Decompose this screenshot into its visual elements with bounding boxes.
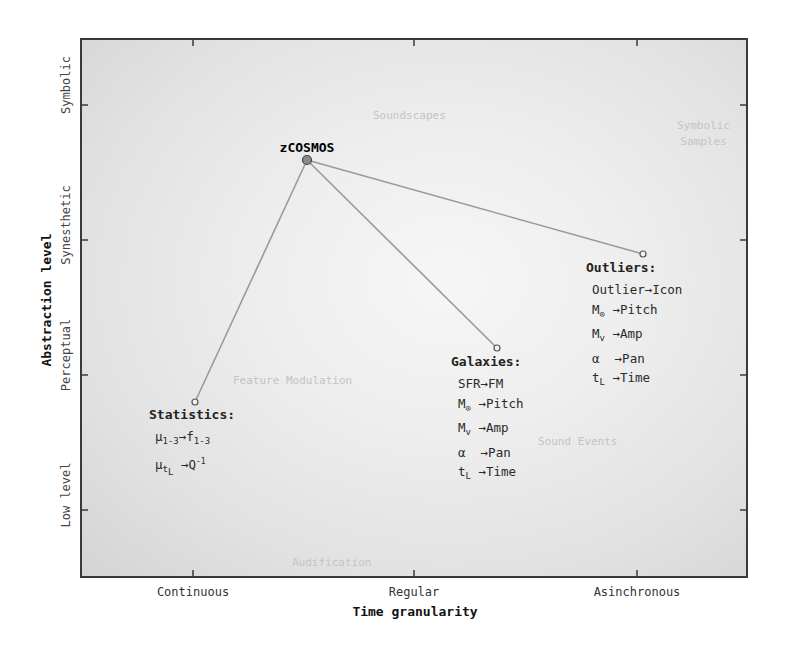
outliers-node-title: Outliers: — [586, 260, 656, 275]
statistics-mapping-2: μtL →Q-1 — [155, 452, 210, 483]
region-symbolic-samples: Symbolic Samples — [677, 118, 730, 150]
galaxies-mapping-3: Mv →Amp — [458, 418, 524, 443]
ytick-symbolic: Symbolic — [59, 56, 73, 114]
galaxies-mapping-5: tL →Time — [458, 462, 524, 487]
edge-root-statistics — [195, 160, 307, 402]
region-sound-events: Sound Events — [538, 434, 617, 450]
edge-root-outliers — [307, 160, 643, 254]
root-node-marker — [303, 156, 312, 165]
x-ticks-bottom — [193, 570, 637, 577]
region-soundscapes: Soundscapes — [373, 108, 446, 124]
outliers-mapping-3: Mv →Amp — [592, 324, 682, 349]
y-axis-title: Abstraction level — [39, 233, 54, 366]
statistics-node-marker — [192, 399, 198, 405]
ytick-perceptual: Perceptual — [59, 319, 73, 391]
statistics-mapping-list: μ1-3→f1-3 μtL →Q-1 — [155, 427, 210, 482]
statistics-mapping-1: μ1-3→f1-3 — [155, 427, 210, 452]
xtick-continuous: Continuous — [157, 585, 229, 599]
y-ticks-left — [81, 105, 88, 510]
outliers-mapping-5: tL →Time — [592, 368, 682, 393]
outliers-mapping-1: Outlier→Icon — [592, 280, 682, 300]
xtick-regular: Regular — [389, 585, 440, 599]
galaxies-node-title: Galaxies: — [451, 354, 521, 369]
region-symbolic-samples-line1: Symbolic — [677, 119, 730, 132]
x-ticks-top — [193, 39, 637, 46]
outliers-node-marker — [640, 251, 646, 257]
outliers-mapping-2: M⊙ →Pitch — [592, 300, 682, 325]
galaxies-node-marker — [494, 345, 500, 351]
x-axis-title: Time granularity — [352, 604, 477, 619]
ytick-synesthetic: Synesthetic — [59, 185, 73, 264]
edge-root-galaxies — [307, 160, 497, 348]
diagram-stage: Symbolic Synesthetic Perceptual Low leve… — [0, 0, 791, 652]
ytick-low-level: Low level — [59, 462, 73, 527]
statistics-node-title: Statistics: — [149, 407, 235, 422]
region-symbolic-samples-line2: Samples — [680, 135, 726, 148]
y-ticks-right — [740, 105, 747, 510]
xtick-asinchronous: Asinchronous — [594, 585, 681, 599]
galaxies-mapping-4: α →Pan — [458, 443, 524, 463]
region-feature-modulation: Feature Modulation — [233, 373, 352, 389]
edges — [195, 160, 643, 402]
galaxies-mapping-list: SFR→FM M⊙ →Pitch Mv →Amp α →Pan tL →Time — [458, 374, 524, 487]
galaxies-mapping-2: M⊙ →Pitch — [458, 394, 524, 419]
outliers-mapping-list: Outlier→Icon M⊙ →Pitch Mv →Amp α →Pan tL… — [592, 280, 682, 393]
region-audification: Audification — [292, 555, 371, 571]
outliers-mapping-4: α →Pan — [592, 349, 682, 369]
root-node-label: zCOSMOS — [280, 140, 335, 155]
galaxies-mapping-1: SFR→FM — [458, 374, 524, 394]
